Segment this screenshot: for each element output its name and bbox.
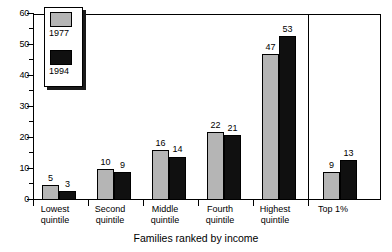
y-tick-label-60: 60	[7, 9, 29, 18]
value-label-1977-top-1-percent: 9	[321, 161, 342, 170]
y-tick-label-20: 20	[7, 133, 29, 142]
bar-group-fourth-quintile: 22 21	[207, 14, 253, 200]
bar-1977-top-1-percent[interactable]	[323, 172, 340, 200]
bar-1994-highest-quintile[interactable]	[279, 36, 296, 200]
bar-1994-lowest-quintile[interactable]	[59, 191, 76, 200]
bar-1994-second-quintile[interactable]	[114, 172, 131, 200]
legend-swatch-1994-icon	[50, 50, 72, 65]
legend-label-1977: 1977	[49, 28, 79, 38]
x-label-lowest-quintile: Lowest quintile	[27, 204, 83, 225]
value-label-1994-lowest-quintile: 3	[57, 180, 78, 189]
bar-1977-middle-quintile[interactable]	[152, 150, 169, 200]
bar-1977-fourth-quintile[interactable]	[207, 132, 224, 200]
value-label-1994-middle-quintile: 14	[167, 145, 188, 154]
y-tick-label-30: 30	[7, 102, 29, 111]
bar-group-top-1-percent: 9 13	[323, 14, 369, 200]
bar-1977-second-quintile[interactable]	[97, 169, 114, 200]
bar-1994-middle-quintile[interactable]	[169, 157, 186, 200]
bar-1977-highest-quintile[interactable]	[262, 54, 279, 200]
legend-box: 1977 1994	[44, 7, 83, 87]
bar-group-highest-quintile: 47 53	[262, 14, 308, 200]
legend-item-1994[interactable]: 1994	[49, 50, 79, 76]
value-label-1994-fourth-quintile: 21	[222, 124, 243, 133]
y-tick-label-40: 40	[7, 71, 29, 80]
y-tick-label-50: 50	[7, 40, 29, 49]
y-tick-label-0: 0	[7, 195, 29, 204]
x-label-top-1-percent: Top 1%	[305, 204, 361, 215]
bar-group-second-quintile: 10 9	[97, 14, 143, 200]
legend-item-1977[interactable]: 1977	[49, 12, 79, 38]
bar-1994-fourth-quintile[interactable]	[224, 135, 241, 200]
y-tick-label-10: 10	[7, 164, 29, 173]
value-label-1977-highest-quintile: 47	[260, 43, 281, 52]
x-label-highest-quintile: Highest quintile	[247, 204, 303, 225]
bar-group-middle-quintile: 16 14	[152, 14, 198, 200]
legend-swatch-1977-icon	[50, 12, 72, 27]
legend-label-1994: 1994	[49, 66, 79, 76]
bar-chart: 0 10 20 30 40 50 60 5 3 10 9	[0, 0, 392, 252]
value-label-1994-second-quintile: 9	[112, 161, 133, 170]
x-axis-title: Families ranked by income	[0, 233, 392, 244]
x-label-second-quintile: Second quintile	[82, 204, 138, 225]
value-label-1994-top-1-percent: 13	[338, 149, 359, 158]
x-label-fourth-quintile: Fourth quintile	[192, 204, 248, 225]
value-label-1994-highest-quintile: 53	[277, 25, 298, 34]
bar-1994-top-1-percent[interactable]	[340, 160, 357, 200]
x-label-middle-quintile: Middle quintile	[137, 204, 193, 225]
